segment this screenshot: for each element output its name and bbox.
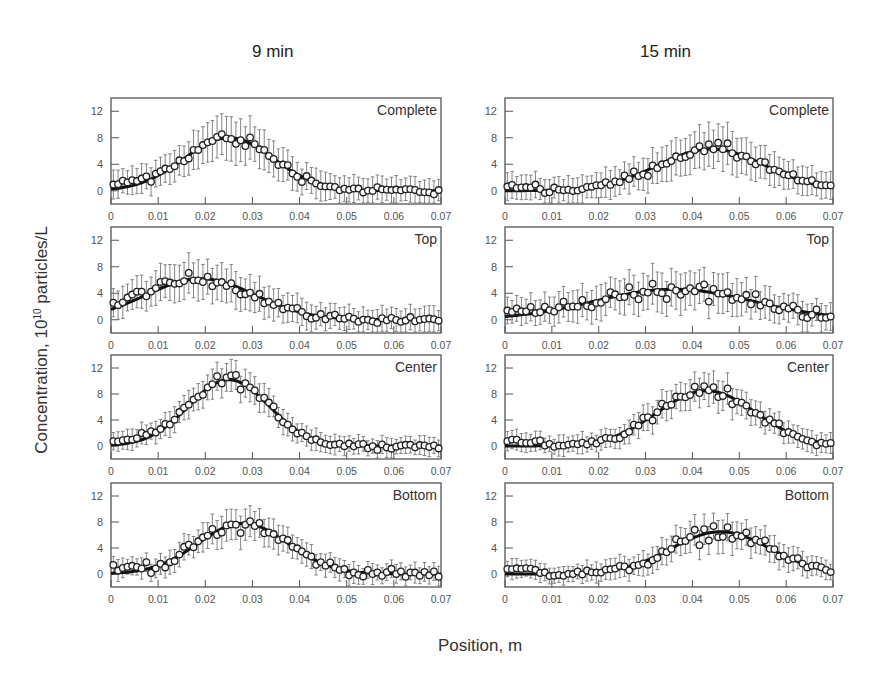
svg-text:0: 0 <box>491 440 497 452</box>
svg-text:0.05: 0.05 <box>336 210 357 222</box>
svg-text:8: 8 <box>491 388 497 400</box>
svg-text:0: 0 <box>502 339 508 351</box>
svg-text:0.06: 0.06 <box>384 210 405 222</box>
svg-text:0: 0 <box>97 568 103 580</box>
svg-text:0.01: 0.01 <box>542 210 563 222</box>
svg-text:8: 8 <box>491 132 497 144</box>
svg-text:0.07: 0.07 <box>823 210 844 222</box>
svg-text:0.03: 0.03 <box>242 465 263 477</box>
panel-9min-complete: 0481200.010.020.030.040.050.060.07Comple… <box>91 98 452 222</box>
svg-text:0.05: 0.05 <box>336 339 357 351</box>
svg-text:0.04: 0.04 <box>289 465 310 477</box>
svg-text:0.06: 0.06 <box>776 465 797 477</box>
svg-text:0.02: 0.02 <box>195 593 216 605</box>
svg-text:0.04: 0.04 <box>682 339 703 351</box>
svg-text:0.03: 0.03 <box>242 210 263 222</box>
svg-text:0: 0 <box>502 465 508 477</box>
panel-15min-complete: 0481200.010.020.030.040.050.060.07Comple… <box>485 98 844 222</box>
svg-text:4: 4 <box>97 542 103 554</box>
svg-text:0.01: 0.01 <box>148 593 169 605</box>
svg-text:Top: Top <box>806 231 829 247</box>
svg-text:Top: Top <box>414 231 437 247</box>
svg-text:0.02: 0.02 <box>195 465 216 477</box>
svg-text:8: 8 <box>97 132 103 144</box>
svg-text:0.01: 0.01 <box>542 339 563 351</box>
svg-text:0.02: 0.02 <box>588 210 609 222</box>
svg-text:0.03: 0.03 <box>635 339 656 351</box>
svg-text:0.07: 0.07 <box>431 210 452 222</box>
panel-9min-top: 0481200.010.020.030.040.050.060.07Top <box>91 227 452 351</box>
svg-text:0.07: 0.07 <box>431 465 452 477</box>
svg-text:4: 4 <box>491 414 497 426</box>
svg-text:0.06: 0.06 <box>776 593 797 605</box>
svg-text:12: 12 <box>485 234 497 246</box>
svg-text:0: 0 <box>491 568 497 580</box>
svg-text:0.06: 0.06 <box>384 465 405 477</box>
svg-text:0: 0 <box>97 314 103 326</box>
svg-text:0.02: 0.02 <box>588 339 609 351</box>
svg-text:0: 0 <box>491 185 497 197</box>
svg-text:4: 4 <box>491 287 497 299</box>
svg-text:0: 0 <box>108 593 114 605</box>
svg-text:8: 8 <box>97 388 103 400</box>
svg-text:0.02: 0.02 <box>588 465 609 477</box>
svg-text:0.05: 0.05 <box>729 465 750 477</box>
svg-text:0: 0 <box>108 339 114 351</box>
svg-text:0.07: 0.07 <box>823 465 844 477</box>
svg-text:0.04: 0.04 <box>682 593 703 605</box>
svg-text:12: 12 <box>91 234 103 246</box>
svg-text:0.01: 0.01 <box>148 210 169 222</box>
svg-text:0.07: 0.07 <box>823 593 844 605</box>
svg-text:0.04: 0.04 <box>289 593 310 605</box>
svg-text:0.06: 0.06 <box>776 339 797 351</box>
svg-text:0: 0 <box>502 210 508 222</box>
svg-text:4: 4 <box>491 542 497 554</box>
svg-text:0.07: 0.07 <box>431 593 452 605</box>
svg-text:Bottom: Bottom <box>393 487 437 503</box>
svg-text:0.04: 0.04 <box>682 465 703 477</box>
svg-text:8: 8 <box>97 516 103 528</box>
svg-text:12: 12 <box>91 105 103 117</box>
svg-text:4: 4 <box>97 414 103 426</box>
svg-text:12: 12 <box>485 105 497 117</box>
panel-9min-center: 0481200.010.020.030.040.050.060.07Center <box>91 355 452 477</box>
svg-text:0: 0 <box>502 593 508 605</box>
svg-text:0: 0 <box>108 210 114 222</box>
svg-text:4: 4 <box>97 158 103 170</box>
svg-text:4: 4 <box>97 287 103 299</box>
svg-text:0.07: 0.07 <box>431 339 452 351</box>
svg-text:0.06: 0.06 <box>776 210 797 222</box>
svg-text:0.05: 0.05 <box>336 465 357 477</box>
svg-text:0.05: 0.05 <box>336 593 357 605</box>
svg-text:Center: Center <box>395 359 437 375</box>
svg-text:0.06: 0.06 <box>384 339 405 351</box>
svg-text:8: 8 <box>97 261 103 273</box>
svg-text:Bottom: Bottom <box>785 487 829 503</box>
svg-text:0.01: 0.01 <box>542 465 563 477</box>
svg-text:0.03: 0.03 <box>242 593 263 605</box>
svg-text:8: 8 <box>491 261 497 273</box>
svg-text:0.05: 0.05 <box>729 210 750 222</box>
svg-text:0.06: 0.06 <box>384 593 405 605</box>
svg-text:12: 12 <box>485 490 497 502</box>
svg-text:0.03: 0.03 <box>635 593 656 605</box>
panel-15min-top: 0481200.010.020.030.040.050.060.07Top <box>485 227 844 351</box>
panel-15min-bottom: 0481200.010.020.030.040.050.060.07Bottom <box>485 483 844 605</box>
svg-text:12: 12 <box>91 490 103 502</box>
panel-grid: 0481200.010.020.030.040.050.060.07Comple… <box>0 0 882 683</box>
svg-text:12: 12 <box>91 362 103 374</box>
svg-text:0.03: 0.03 <box>635 210 656 222</box>
panel-9min-bottom: 0481200.010.020.030.040.050.060.07Bottom <box>91 483 452 605</box>
panel-15min-center: 0481200.010.020.030.040.050.060.07Center <box>485 355 844 477</box>
svg-text:0.07: 0.07 <box>823 339 844 351</box>
svg-text:0: 0 <box>491 314 497 326</box>
svg-text:0.01: 0.01 <box>148 465 169 477</box>
svg-text:Complete: Complete <box>769 102 829 118</box>
svg-text:0.01: 0.01 <box>542 593 563 605</box>
svg-text:0.04: 0.04 <box>289 210 310 222</box>
svg-text:0.02: 0.02 <box>588 593 609 605</box>
svg-text:0.04: 0.04 <box>682 210 703 222</box>
svg-text:0.03: 0.03 <box>635 465 656 477</box>
svg-text:12: 12 <box>485 362 497 374</box>
svg-text:0.02: 0.02 <box>195 339 216 351</box>
